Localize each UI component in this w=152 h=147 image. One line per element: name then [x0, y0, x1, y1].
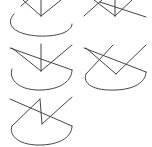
- panel-1-right-line: [41, 0, 61, 16]
- panel-1-arc: [10, 14, 72, 36]
- panel-3-right-line: [41, 45, 72, 71]
- panel-4-arc: [85, 72, 146, 90]
- panel-4-left-line: [86, 48, 116, 74]
- panel-5-arc: [11, 126, 72, 145]
- panel-2-line-b: [94, 0, 115, 16]
- panel-4-diagonal: [84, 48, 146, 72]
- panel-3-left-line: [12, 48, 41, 71]
- panel-3-arc: [11, 69, 72, 90]
- panel-4: [84, 45, 146, 90]
- panel-5: [10, 97, 72, 145]
- panel-1: [10, 0, 72, 36]
- panel-5-vertical-line: [40, 99, 42, 124]
- panel-4-right-line: [116, 45, 146, 74]
- figure-canvas: [0, 0, 152, 147]
- panel-4-cross-line: [86, 45, 113, 74]
- panel-3: [10, 44, 72, 90]
- panel-2-line-a: [84, 0, 102, 16]
- panel-2: [84, 0, 146, 17]
- panel-5-left-line: [12, 99, 40, 126]
